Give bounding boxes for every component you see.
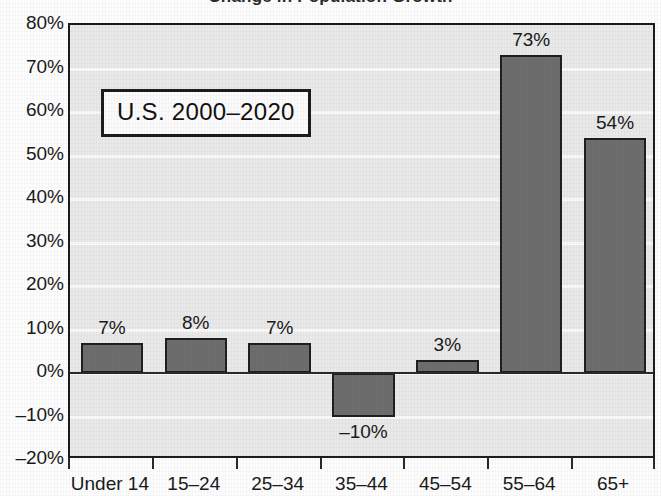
gridline xyxy=(70,155,653,158)
y-axis: 80%70%60%50%40%30%20%10%0%–10%–20% xyxy=(0,23,64,458)
chart-figure: Change in Population Growth 80%70%60%50%… xyxy=(0,0,661,496)
bar xyxy=(165,338,227,373)
bar xyxy=(584,138,646,373)
y-tick-label: 50% xyxy=(2,143,64,165)
bar xyxy=(81,343,143,373)
x-tick xyxy=(236,458,238,469)
chart-title: Change in Population Growth xyxy=(0,0,661,7)
y-tick-label: 20% xyxy=(2,273,64,295)
gridline xyxy=(70,198,653,201)
y-tick-label: 30% xyxy=(2,230,64,252)
bar-value-label: –10% xyxy=(322,421,406,443)
x-tick xyxy=(653,458,655,469)
y-tick-label: 10% xyxy=(2,317,64,339)
bar xyxy=(248,343,310,373)
bar xyxy=(332,373,394,417)
bar-value-label: 54% xyxy=(573,112,655,134)
bar-value-label: 7% xyxy=(238,317,322,339)
bar xyxy=(500,55,562,373)
gridline xyxy=(70,242,653,245)
zero-baseline xyxy=(70,372,653,374)
bar-value-label: 8% xyxy=(154,312,238,334)
annotation-label: U.S. 2000–2020 xyxy=(101,89,311,137)
y-tick-label: 40% xyxy=(2,186,64,208)
bar-value-label: 73% xyxy=(489,29,573,51)
y-tick-label: 80% xyxy=(2,12,64,34)
y-tick-label: –20% xyxy=(2,447,64,469)
x-tick-label: 55–64 xyxy=(503,473,556,495)
x-tick xyxy=(68,458,70,469)
bar-value-label: 7% xyxy=(70,317,154,339)
y-tick-label: 70% xyxy=(2,56,64,78)
y-tick-label: –10% xyxy=(2,404,64,426)
x-tick xyxy=(152,458,154,469)
x-tick-label: Under 14 xyxy=(71,473,149,495)
x-tick-label: 25–34 xyxy=(251,473,304,495)
y-tick-label: 60% xyxy=(2,99,64,121)
plot-area: 7%8%7%–10%3%73%54% U.S. 2000–2020 xyxy=(68,23,655,458)
x-tick xyxy=(320,458,322,469)
x-axis: Under 1415–2425–3435–4445–5455–6465+ xyxy=(68,458,655,496)
x-tick-label: 35–44 xyxy=(335,473,388,495)
x-tick-label: 15–24 xyxy=(167,473,220,495)
gridline xyxy=(70,285,653,288)
y-tick-label: 0% xyxy=(2,360,64,382)
x-tick xyxy=(487,458,489,469)
bar-value-label: 3% xyxy=(405,334,489,356)
x-tick xyxy=(571,458,573,469)
x-tick-label: 65+ xyxy=(597,473,629,495)
x-tick xyxy=(403,458,405,469)
gridline xyxy=(70,68,653,71)
x-tick-label: 45–54 xyxy=(419,473,472,495)
